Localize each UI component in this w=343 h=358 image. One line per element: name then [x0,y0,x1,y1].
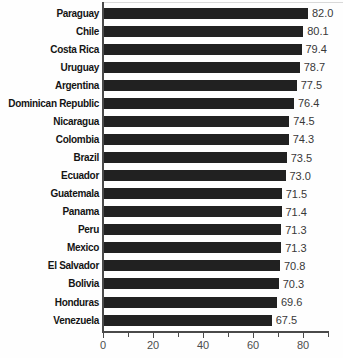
bar-row: Panama71.4 [0,203,343,221]
category-label: Mexico [0,242,103,253]
bar [103,80,297,91]
category-label: Venezuela [0,315,103,326]
bar-row: Argentina77.5 [0,76,343,94]
x-axis-minor-tick [328,333,329,337]
value-label: 71.4 [286,206,307,218]
value-label: 76.4 [298,97,319,109]
bar [103,26,303,37]
bar-row: Bolivia70.3 [0,275,343,293]
bar [103,152,287,163]
value-label: 71.5 [286,188,307,200]
x-axis-minor-tick [128,333,129,337]
bar-row: Peru71.3 [0,221,343,239]
y-axis-line [102,2,104,332]
x-axis-major-tick [303,333,304,338]
x-axis-major-tick [203,333,204,338]
x-axis-tick-label: 40 [188,339,218,351]
x-axis-minor-tick [278,333,279,337]
category-label: Bolivia [0,278,103,289]
category-label: Chile [0,26,103,37]
value-label: 70.8 [284,260,305,272]
bar-rows: Paraguay82.0Chile80.1Costa Rica79.4Urugu… [0,4,343,329]
bar-row: Honduras69.6 [0,293,343,311]
value-label: 69.6 [281,296,302,308]
category-label: Ecuador [0,170,103,181]
x-axis-minor-tick [178,333,179,337]
bar-row: El Salvador70.8 [0,257,343,275]
category-label: Paraguay [0,8,103,19]
bar [103,170,286,181]
category-label: Honduras [0,297,103,308]
bar-row: Paraguay82.0 [0,4,343,22]
bar-row: Uruguay78.7 [0,58,343,76]
bar [103,134,289,145]
bar [103,62,300,73]
x-axis-tick-label: 60 [238,339,268,351]
value-label: 80.1 [307,25,328,37]
bar-row: Brazil73.5 [0,149,343,167]
bar [103,315,272,326]
bar [103,8,308,19]
value-label: 71.3 [285,242,306,254]
category-label: Colombia [0,134,103,145]
value-label: 73.0 [290,170,311,182]
bar [103,242,281,253]
bar [103,116,289,127]
category-label: El Salvador [0,260,103,271]
x-axis-line [102,331,329,333]
bar-row: Nicaragua74.5 [0,112,343,130]
value-label: 82.0 [312,7,333,19]
x-axis-tick-label: 20 [138,339,168,351]
category-label: Costa Rica [0,44,103,55]
category-label: Uruguay [0,62,103,73]
bar [103,98,294,109]
value-label: 71.3 [285,224,306,236]
category-label: Nicaragua [0,116,103,127]
value-label: 74.3 [293,133,314,145]
value-label: 77.5 [301,79,322,91]
bar-row: Chile80.1 [0,22,343,40]
bar [103,260,280,271]
category-label: Peru [0,224,103,235]
category-label: Dominican Republic [0,98,103,109]
x-axis-major-tick [103,333,104,338]
category-label: Panama [0,206,103,217]
bar [103,297,277,308]
x-axis-minor-tick [228,333,229,337]
value-label: 78.7 [304,61,325,73]
bar-row: Mexico71.3 [0,239,343,257]
value-label: 79.4 [306,43,327,55]
bar [103,206,282,217]
bar-row: Dominican Republic76.4 [0,94,343,112]
plot-top-border [103,2,343,3]
bar-row: Guatemala71.5 [0,185,343,203]
category-label: Guatemala [0,188,103,199]
x-axis-major-tick [253,333,254,338]
bar [103,278,279,289]
bar-row: Venezuela67.5 [0,311,343,329]
x-axis-tick-label: 0 [88,339,118,351]
category-label: Argentina [0,80,103,91]
bar-row: Costa Rica79.4 [0,40,343,58]
value-label: 67.5 [276,314,297,326]
bar-row: Ecuador73.0 [0,167,343,185]
bar-row: Colombia74.3 [0,130,343,148]
bar [103,44,302,55]
value-label: 73.5 [291,152,312,164]
bar [103,188,282,199]
x-axis-major-tick [153,333,154,338]
value-label: 74.5 [293,115,314,127]
value-label: 70.3 [283,278,304,290]
bar [103,224,281,235]
category-label: Brazil [0,152,103,163]
x-axis-tick-label: 80 [288,339,318,351]
horizontal-bar-chart: Paraguay82.0Chile80.1Costa Rica79.4Urugu… [0,0,343,358]
